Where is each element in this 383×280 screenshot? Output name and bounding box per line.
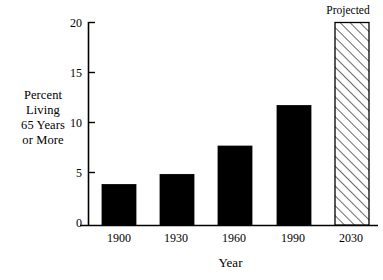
x-tick-label-2030: 2030 <box>324 232 378 244</box>
x-tick-label-1930: 1930 <box>149 232 203 244</box>
x-tick-label-1990: 1990 <box>266 232 320 244</box>
bar-chart: Percent Living 65 Years or More 20 15 10… <box>0 0 383 280</box>
bar-1930 <box>160 174 194 225</box>
bar-2030 <box>335 23 369 226</box>
x-tick-label-1960: 1960 <box>207 232 261 244</box>
bar-1990 <box>277 106 311 225</box>
bar-1900 <box>102 185 136 226</box>
projected-annotation: Projected <box>316 4 380 16</box>
x-axis-title: Year <box>88 256 373 270</box>
bars-group <box>102 23 369 226</box>
bar-1960 <box>218 146 252 225</box>
x-tick-label-1900: 1900 <box>92 232 146 244</box>
